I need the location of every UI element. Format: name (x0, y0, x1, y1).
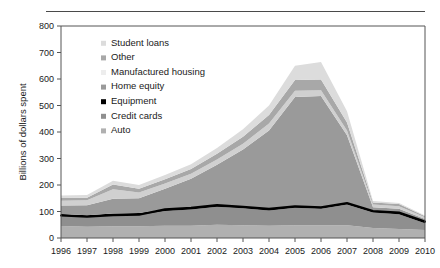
y-tick-label: 700 (39, 48, 54, 58)
x-tick-label: 2007 (337, 246, 357, 256)
legend-swatch (101, 55, 106, 60)
x-tick-label: 2003 (233, 246, 253, 256)
legend-label: Manufactured housing (111, 66, 205, 77)
y-axis-title: Billions of dollars spent (17, 83, 28, 181)
legend-swatch (101, 99, 106, 104)
legend-swatch (101, 114, 106, 119)
stacked-area-chart: 0100200300400500600700800199619971998199… (0, 0, 440, 268)
y-tick-label: 300 (39, 154, 54, 164)
y-tick-label: 500 (39, 101, 54, 111)
y-tick-label: 400 (39, 127, 54, 137)
x-tick-label: 1996 (51, 246, 71, 256)
x-tick-label: 2004 (259, 246, 279, 256)
legend-swatch (101, 70, 106, 75)
y-tick-label: 0 (49, 233, 54, 243)
y-tick-label: 200 (39, 180, 54, 190)
x-tick-label: 2009 (389, 246, 409, 256)
x-tick-label: 1997 (77, 246, 97, 256)
legend-label: Equipment (111, 95, 157, 106)
y-tick-label: 600 (39, 74, 54, 84)
y-tick-label: 800 (39, 21, 54, 31)
legend-label: Other (111, 51, 135, 62)
legend-label: Student loans (111, 37, 169, 48)
legend-swatch (101, 41, 106, 46)
legend-swatch (101, 128, 106, 133)
legend-swatch (101, 85, 106, 90)
y-tick-label: 100 (39, 207, 54, 217)
legend-label: Home equity (111, 80, 165, 91)
x-tick-label: 2000 (155, 246, 175, 256)
legend-label: Credit cards (111, 110, 162, 121)
x-tick-label: 2005 (285, 246, 305, 256)
x-tick-label: 2006 (311, 246, 331, 256)
x-tick-label: 2002 (207, 246, 227, 256)
x-tick-label: 2010 (415, 246, 435, 256)
x-tick-label: 1999 (129, 246, 149, 256)
x-tick-label: 1998 (103, 246, 123, 256)
x-tick-label: 2001 (181, 246, 201, 256)
legend-label: Auto (111, 124, 131, 135)
chart-legend: Student loansOtherManufactured housingHo… (101, 37, 205, 136)
x-tick-label: 2008 (363, 246, 383, 256)
chart-figure: 0100200300400500600700800199619971998199… (0, 0, 440, 268)
